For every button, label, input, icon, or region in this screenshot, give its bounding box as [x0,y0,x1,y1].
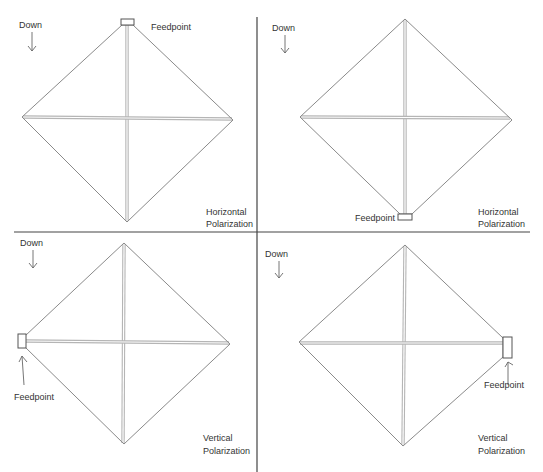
loop-wire [299,245,503,446]
polarization-label-line1: Vertical [203,433,233,443]
down-indicator: Down [20,238,43,268]
panel-bottom-right: Down Feedpoint Vertical Polarization [265,245,525,456]
feedpoint-box [18,334,26,348]
polarization-label-line1: Horizontal [206,207,247,217]
feedpoint-arrow-icon [19,356,27,385]
down-label: Down [20,238,43,248]
feedpoint-label: Feedpoint [355,213,396,223]
polarization-label-line2: Polarization [478,446,525,456]
polarization-label-line1: Vertical [478,433,508,443]
panel-top-right: Down Feedpoint Horizontal Polarization [272,19,525,229]
down-indicator: Down [19,20,42,51]
down-arrow-icon [29,250,37,268]
quad-loop [22,24,233,222]
feedpoint-label: Feedpoint [14,392,55,402]
quad-loop [300,19,512,214]
down-indicator: Down [265,249,288,278]
down-arrow-icon [28,32,36,51]
down-arrow-icon [281,35,289,53]
polarization-label-line1: Horizontal [478,207,519,217]
feedpoint-label: Feedpoint [484,380,525,390]
down-indicator: Down [272,23,295,53]
feedpoint-box [398,214,412,220]
quad-loop [299,245,503,446]
antenna-diagram: Down Feedpoint Horizontal Polarization D… [0,0,543,472]
polarization-label-line2: Polarization [206,219,253,229]
feedpoint-box [503,337,512,358]
feedpoint-label: Feedpoint [151,22,192,32]
down-arrow-icon [275,261,283,278]
polarization-label-line2: Polarization [203,446,250,456]
panel-top-left: Down Feedpoint Horizontal Polarization [19,19,253,229]
down-label: Down [272,23,295,33]
polarization-label-line2: Polarization [478,219,525,229]
panel-bottom-left: Down Feedpoint Vertical Polarization [14,238,250,456]
down-label: Down [19,20,42,30]
down-label: Down [265,249,288,259]
feedpoint-box [121,19,134,25]
quad-loop [25,243,230,444]
